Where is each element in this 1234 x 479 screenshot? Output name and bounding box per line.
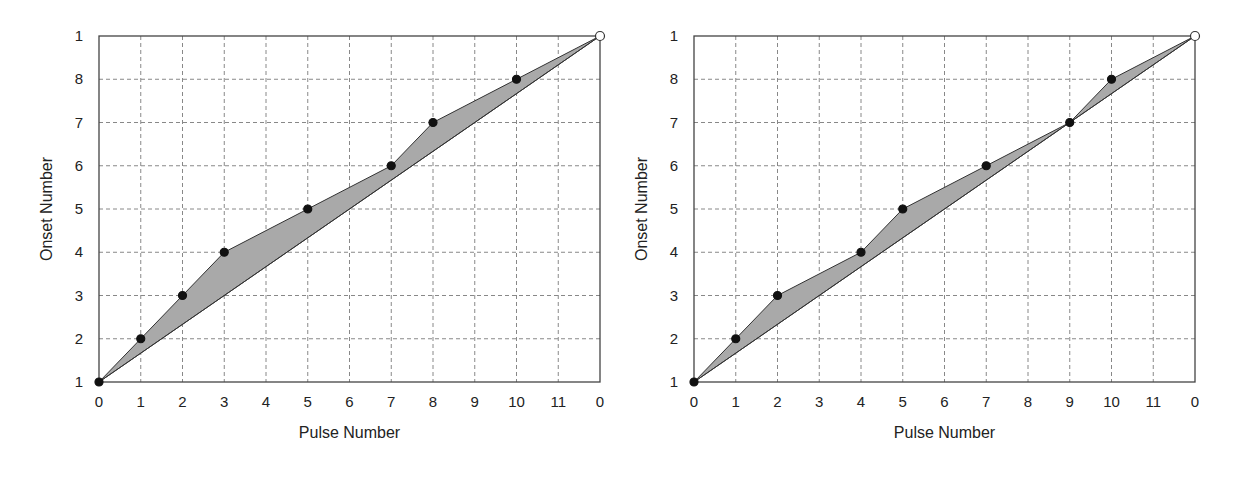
y-tick-label: 5 <box>670 200 678 217</box>
y-tick-label: 6 <box>75 157 83 174</box>
y-tick-label: 5 <box>75 200 83 217</box>
data-point <box>220 248 228 256</box>
chart-right-svg: 012345678910110123456781Pulse NumberOnse… <box>595 0 1234 479</box>
data-point <box>1108 75 1116 83</box>
data-point <box>137 335 145 343</box>
data-point <box>857 248 865 256</box>
chart-left-svg: 012345678910110123456781Pulse NumberOnse… <box>0 0 617 479</box>
y-tick-label: 8 <box>75 70 83 87</box>
x-tick-label: 0 <box>1191 393 1199 410</box>
y-tick-label: 1 <box>670 27 678 44</box>
x-axis-label: Pulse Number <box>894 424 996 441</box>
y-tick-label: 1 <box>75 27 83 44</box>
x-axis-label: Pulse Number <box>299 424 401 441</box>
x-tick-label: 7 <box>982 393 990 410</box>
x-tick-label: 10 <box>1103 393 1120 410</box>
x-tick-label: 11 <box>550 393 566 410</box>
x-tick-label: 4 <box>857 393 865 410</box>
x-tick-label: 6 <box>345 393 353 410</box>
data-point <box>387 162 395 170</box>
data-point <box>690 378 698 386</box>
data-point <box>95 378 103 386</box>
data-point <box>899 205 907 213</box>
data-point <box>304 205 312 213</box>
x-tick-label: 4 <box>262 393 270 410</box>
y-tick-label: 8 <box>670 70 678 87</box>
x-tick-label: 10 <box>508 393 525 410</box>
x-tick-label: 9 <box>471 393 479 410</box>
y-tick-label: 1 <box>670 373 678 390</box>
x-tick-label: 0 <box>95 393 103 410</box>
chart-right: 012345678910110123456781Pulse NumberOnse… <box>595 0 1212 479</box>
y-tick-label: 4 <box>670 243 678 260</box>
y-tick-label: 7 <box>75 114 83 131</box>
x-tick-label: 5 <box>899 393 907 410</box>
y-tick-label: 1 <box>75 373 83 390</box>
x-tick-label: 1 <box>732 393 740 410</box>
x-tick-label: 7 <box>387 393 395 410</box>
data-point <box>732 335 740 343</box>
x-tick-label: 3 <box>815 393 823 410</box>
data-point <box>429 119 437 127</box>
data-point <box>982 162 990 170</box>
data-point <box>513 75 521 83</box>
y-tick-label: 7 <box>670 114 678 131</box>
y-tick-label: 2 <box>670 330 678 347</box>
data-point <box>1066 119 1074 127</box>
x-tick-label: 0 <box>690 393 698 410</box>
x-tick-label: 3 <box>220 393 228 410</box>
x-tick-label: 6 <box>940 393 948 410</box>
x-tick-label: 9 <box>1066 393 1074 410</box>
y-axis-label: Onset Number <box>38 156 55 261</box>
x-tick-label: 5 <box>304 393 312 410</box>
y-tick-label: 3 <box>75 287 83 304</box>
x-tick-label: 8 <box>429 393 437 410</box>
x-tick-label: 8 <box>1024 393 1032 410</box>
data-point <box>774 292 782 300</box>
y-tick-label: 4 <box>75 243 83 260</box>
data-point <box>179 292 187 300</box>
open-circle-marker <box>1191 32 1200 41</box>
y-tick-label: 3 <box>670 287 678 304</box>
y-tick-label: 2 <box>75 330 83 347</box>
x-tick-label: 2 <box>773 393 781 410</box>
x-tick-label: 2 <box>178 393 186 410</box>
chart-left: 012345678910110123456781Pulse NumberOnse… <box>0 0 617 479</box>
y-axis-label: Onset Number <box>633 156 650 261</box>
y-tick-label: 6 <box>670 157 678 174</box>
x-tick-label: 1 <box>137 393 145 410</box>
x-tick-label: 11 <box>1145 393 1161 410</box>
